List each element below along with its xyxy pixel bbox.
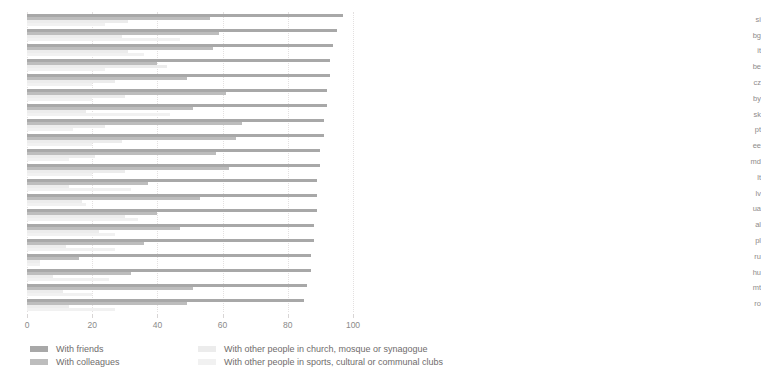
axis-tick [92, 314, 93, 318]
chart-row: dk [27, 177, 353, 192]
chart-row: es [27, 282, 353, 297]
chart-row: gb [27, 72, 353, 87]
bar-other [27, 68, 105, 71]
category-label: cz [721, 79, 761, 87]
legend-swatch [198, 359, 216, 365]
chart-row: fr [27, 267, 353, 282]
axis-tick [27, 314, 28, 318]
bar-other [27, 128, 73, 131]
bar-other [27, 233, 115, 236]
bar-other [27, 53, 144, 56]
chart-row: ser [27, 132, 353, 147]
category-label: sk [721, 111, 761, 119]
chart-row: nir [27, 57, 353, 72]
bar-other [27, 38, 180, 41]
axis-tick-label: 80 [283, 320, 292, 330]
axis-tick [157, 314, 158, 318]
x-axis-left: 020406080100 [27, 314, 353, 336]
chart-row: is [27, 207, 353, 222]
axis-tick [288, 314, 289, 318]
bar-other [27, 203, 86, 206]
category-label: md [721, 158, 761, 166]
category-label: pl [721, 237, 761, 245]
bar-other [27, 173, 92, 176]
bar-other [27, 278, 109, 281]
category-label: al [721, 221, 761, 229]
legend-label: With other people in sports, cultural or… [224, 358, 443, 367]
category-label: by [721, 95, 761, 103]
chart-root: baseienirgbgrnlmonsertrmkdkhrisfiatlufre… [0, 0, 761, 379]
bar-other [27, 218, 138, 221]
category-label: ee [721, 142, 761, 150]
bar-other [27, 188, 131, 191]
bar-other [27, 23, 105, 26]
category-label: ro [721, 300, 761, 308]
axis-tick [353, 314, 354, 318]
category-label: lv [721, 190, 761, 198]
axis-tick-label: 20 [87, 320, 96, 330]
chart-row: se [27, 27, 353, 42]
category-label: lt [721, 174, 761, 182]
legend-label: With friends [56, 345, 104, 354]
legend-label: With colleagues [56, 358, 120, 367]
legend-swatch [198, 346, 216, 352]
chart-row: ie [27, 42, 353, 57]
category-label: mt [721, 284, 761, 292]
chart-row: gr [27, 87, 353, 102]
bar-other [27, 158, 69, 161]
category-label: ru [721, 253, 761, 261]
chart-row: hr [27, 192, 353, 207]
category-label: hu [721, 269, 761, 277]
category-label: be [721, 63, 761, 71]
chart-row: lu [27, 252, 353, 267]
chart-legend: With friendsWith colleaguesWith other pe… [30, 345, 730, 375]
chart-row: mk [27, 162, 353, 177]
chart-panel-right: sibgitbeczbyskpteemdltlvuaalplruhumtro 0… [380, 0, 761, 340]
bar-other [27, 308, 115, 311]
axis-tick-label: 0 [25, 320, 30, 330]
category-label: ua [721, 205, 761, 213]
chart-row: de [27, 297, 353, 312]
bar-other [27, 248, 115, 251]
category-label: bg [721, 32, 761, 40]
chart-row: at [27, 237, 353, 252]
axis-tick-label: 60 [218, 320, 227, 330]
legend-swatch [30, 346, 48, 352]
category-label: it [721, 47, 761, 55]
chart-row: ba [27, 12, 353, 27]
axis-tick-label: 40 [153, 320, 162, 330]
bar-other [27, 83, 92, 86]
chart-row: tr [27, 147, 353, 162]
bar-other [27, 143, 92, 146]
bar-other [27, 263, 40, 266]
chart-row: fi [27, 222, 353, 237]
legend-label: With other people in church, mosque or s… [224, 345, 428, 354]
chart-panel-left: baseienirgbgrnlmonsertrmkdkhrisfiatlufre… [0, 0, 380, 340]
bar-other [27, 98, 92, 101]
chart-row: nl [27, 102, 353, 117]
bar-other [27, 113, 170, 116]
category-label: si [721, 16, 761, 24]
legend-swatch [30, 359, 48, 365]
bar-other [27, 293, 92, 296]
category-label: pt [721, 126, 761, 134]
gridline [353, 12, 354, 312]
chart-row: mon [27, 117, 353, 132]
plot-area-left: baseienirgbgrnlmonsertrmkdkhrisfiatlufre… [27, 12, 353, 312]
axis-tick-label: 100 [346, 320, 360, 330]
axis-tick [223, 314, 224, 318]
